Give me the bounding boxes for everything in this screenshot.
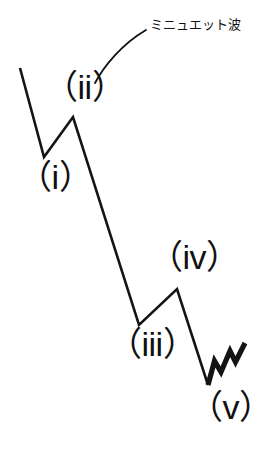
annotation-minuette-wave-label: ミニュエット波 bbox=[150, 18, 241, 31]
wave-chart-canvas bbox=[0, 0, 266, 450]
wave-label-iv: （iv） bbox=[149, 240, 240, 274]
wave-label-iii: （iii） bbox=[108, 327, 196, 361]
elliott-wave-diagram: （i） （ii） （iii） （iv） （v） ミニュエット波 bbox=[0, 0, 266, 450]
wave-label-v: （v） bbox=[189, 390, 266, 424]
subwave-zigzag-line bbox=[208, 343, 245, 385]
wave-label-ii: （ii） bbox=[44, 70, 125, 104]
wave-label-i: （i） bbox=[18, 160, 92, 194]
